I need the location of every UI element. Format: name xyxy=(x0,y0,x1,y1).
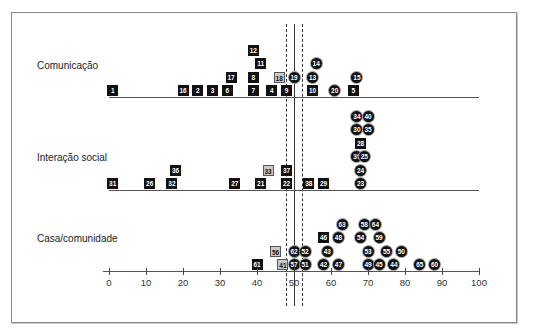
x-axis-tick-label: 20 xyxy=(168,277,198,288)
data-point-36: 36 xyxy=(170,165,181,176)
group-baseline xyxy=(109,97,479,98)
data-point-15: 15 xyxy=(351,72,362,83)
data-point-1: 1 xyxy=(107,85,118,96)
x-axis-tick xyxy=(405,268,406,275)
data-point-14: 14 xyxy=(311,58,322,69)
data-point-58: 58 xyxy=(359,219,370,230)
data-point-55: 55 xyxy=(381,246,392,257)
data-point-8: 8 xyxy=(248,72,259,83)
x-axis-tick-label: 0 xyxy=(94,277,124,288)
data-point-24: 24 xyxy=(355,165,366,176)
x-axis-tick xyxy=(146,268,147,275)
x-axis-tick xyxy=(479,268,480,275)
data-point-4: 4 xyxy=(266,85,277,96)
data-point-45: 45 xyxy=(374,259,385,270)
group-label: Casa/comunidade xyxy=(37,233,118,244)
data-point-47: 47 xyxy=(333,259,344,270)
x-axis-tick-label: 70 xyxy=(353,277,383,288)
data-point-12: 12 xyxy=(248,45,259,56)
data-point-56: 56 xyxy=(270,246,281,257)
data-point-33: 33 xyxy=(263,165,274,176)
x-axis-tick-label: 50 xyxy=(279,277,309,288)
data-point-17: 17 xyxy=(226,72,237,83)
data-point-48: 48 xyxy=(333,232,344,243)
data-point-63: 63 xyxy=(337,219,348,230)
data-point-6: 6 xyxy=(222,85,233,96)
dot-plot: Comunicação11623674910205178181913151114… xyxy=(0,0,549,334)
data-point-10: 10 xyxy=(307,85,318,96)
data-point-5: 5 xyxy=(348,85,359,96)
data-point-52: 52 xyxy=(300,246,311,257)
data-point-11: 11 xyxy=(255,58,266,69)
x-axis-tick xyxy=(109,268,110,275)
data-point-62: 62 xyxy=(289,246,300,257)
data-point-64: 64 xyxy=(370,219,381,230)
x-axis-tick xyxy=(220,268,221,275)
x-axis-tick xyxy=(183,268,184,275)
data-point-20: 20 xyxy=(329,85,340,96)
data-point-13: 13 xyxy=(307,72,318,83)
data-point-65: 65 xyxy=(414,259,425,270)
group-baseline xyxy=(109,190,479,191)
data-point-31: 31 xyxy=(107,178,118,189)
data-point-16: 16 xyxy=(178,85,189,96)
x-axis-tick-label: 30 xyxy=(205,277,235,288)
data-point-32: 32 xyxy=(166,178,177,189)
x-axis-tick-label: 90 xyxy=(427,277,457,288)
data-point-2: 2 xyxy=(192,85,203,96)
data-point-44: 44 xyxy=(388,259,399,270)
x-axis-tick xyxy=(368,268,369,275)
group-label: Interação social xyxy=(37,152,107,163)
data-point-53: 53 xyxy=(363,246,374,257)
data-point-30: 30 xyxy=(351,124,362,135)
data-point-38: 38 xyxy=(303,178,314,189)
data-point-22: 22 xyxy=(281,178,292,189)
data-point-23: 23 xyxy=(355,178,366,189)
data-point-29: 29 xyxy=(318,178,329,189)
data-point-3: 3 xyxy=(207,85,218,96)
data-point-42: 42 xyxy=(318,259,329,270)
data-point-41: 41 xyxy=(277,259,288,270)
x-axis-tick-label: 80 xyxy=(390,277,420,288)
data-point-59: 59 xyxy=(374,232,385,243)
data-point-25: 25 xyxy=(359,151,370,162)
data-point-18: 18 xyxy=(274,72,285,83)
data-point-7: 7 xyxy=(248,85,259,96)
x-axis-tick xyxy=(294,268,295,275)
data-point-43: 43 xyxy=(322,246,333,257)
data-point-46: 46 xyxy=(318,232,329,243)
group-label: Comunicação xyxy=(37,60,98,71)
data-point-60: 60 xyxy=(429,259,440,270)
data-point-54: 54 xyxy=(355,232,366,243)
x-axis-tick xyxy=(331,268,332,275)
x-axis-tick xyxy=(442,268,443,275)
data-point-34: 34 xyxy=(351,111,362,122)
x-axis-tick-label: 60 xyxy=(316,277,346,288)
data-point-28: 28 xyxy=(355,138,366,149)
x-axis-tick-label: 10 xyxy=(131,277,161,288)
data-point-9: 9 xyxy=(281,85,292,96)
group-baseline xyxy=(103,271,480,272)
data-point-50: 50 xyxy=(396,246,407,257)
x-axis-tick-label: 100 xyxy=(464,277,494,288)
data-point-19: 19 xyxy=(289,72,300,83)
data-point-37: 37 xyxy=(281,165,292,176)
x-axis-tick-label: 40 xyxy=(242,277,272,288)
data-point-51: 51 xyxy=(300,259,311,270)
data-point-27: 27 xyxy=(229,178,240,189)
x-axis-tick xyxy=(257,268,258,275)
data-point-35: 35 xyxy=(363,124,374,135)
data-point-40: 40 xyxy=(363,111,374,122)
data-point-26: 26 xyxy=(144,178,155,189)
data-point-21: 21 xyxy=(255,178,266,189)
